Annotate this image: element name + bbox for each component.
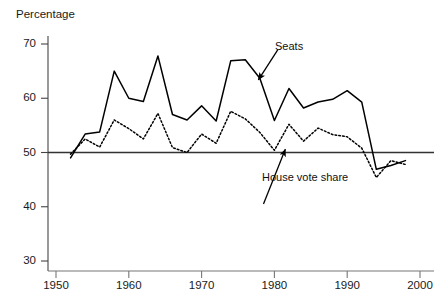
line-chart-plot <box>0 0 442 291</box>
seats-annotation-label: Seats <box>275 41 303 52</box>
series-line-house-vote-share <box>71 111 406 177</box>
y-tick-label-30: 30 <box>14 255 36 267</box>
x-tick-label-2000: 2000 <box>403 280 437 291</box>
x-tick-label-1980: 1980 <box>257 280 291 291</box>
chart-figure: Percentage 3040506070 195019601970198019… <box>0 0 442 291</box>
y-tick-label-60: 60 <box>14 92 36 104</box>
x-tick-label-1950: 1950 <box>39 280 73 291</box>
seats-annotation-arrow <box>258 49 278 79</box>
y-tick-marks <box>41 44 48 261</box>
house-vote-share-annotation-label: House vote share <box>262 172 348 183</box>
x-tick-marks <box>56 271 420 278</box>
x-tick-label-1990: 1990 <box>330 280 364 291</box>
y-tick-label-50: 50 <box>14 147 36 159</box>
x-tick-label-1960: 1960 <box>112 280 146 291</box>
data-series-group <box>71 56 406 178</box>
x-tick-label-1970: 1970 <box>185 280 219 291</box>
y-tick-label-70: 70 <box>14 38 36 50</box>
chart-axes <box>41 36 434 278</box>
y-tick-label-40: 40 <box>14 201 36 213</box>
